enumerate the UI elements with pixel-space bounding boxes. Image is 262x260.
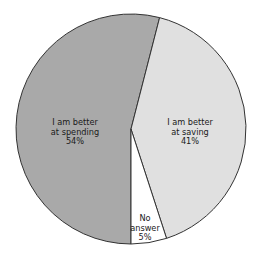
slice-label-line: 41% <box>181 136 199 146</box>
slice-label-line: at spending <box>51 127 99 137</box>
pie-chart: I am betterat spending54%I am betterat s… <box>0 0 262 260</box>
slice-label-line: 5% <box>139 232 152 242</box>
slice-label-line: answer <box>130 223 160 233</box>
slice-label-line: I am better <box>167 117 213 127</box>
slice-label-line: No <box>139 213 150 223</box>
slice-label-line: 54% <box>66 136 84 146</box>
slice-label-line: I am better <box>52 117 98 127</box>
slice-label-line: at saving <box>171 127 209 137</box>
